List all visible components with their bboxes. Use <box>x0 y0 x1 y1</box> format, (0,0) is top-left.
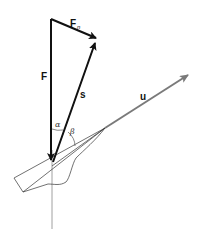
angle-alpha-arc <box>52 129 63 130</box>
label-s: s <box>80 89 86 100</box>
label-Fn-subscript: n <box>77 24 81 30</box>
label-alpha: α <box>55 120 61 129</box>
label-u: u <box>140 91 146 102</box>
label-beta: β <box>69 127 75 136</box>
vector-u <box>105 75 188 128</box>
force-diagram: F F n s u α β <box>0 0 197 241</box>
label-F: F <box>41 71 47 82</box>
vector-s <box>53 43 95 162</box>
label-Fn: F <box>70 18 76 29</box>
boat-hull <box>14 128 105 192</box>
